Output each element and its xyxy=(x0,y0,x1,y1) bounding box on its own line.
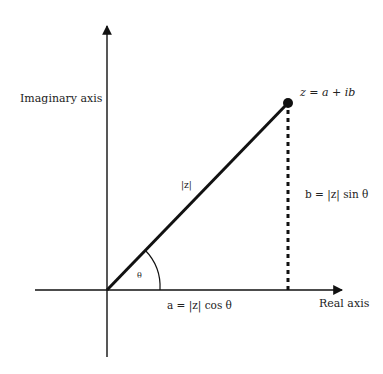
real-axis-label: Real axis xyxy=(319,297,370,310)
point-z xyxy=(283,98,293,108)
complex-plane-diagram: Imaginary axis Real axis z = a + ib |z| … xyxy=(0,0,383,374)
imaginary-part-label: b = |z| sin θ xyxy=(305,188,368,202)
modulus-vector xyxy=(107,103,288,290)
modulus-label: |z| xyxy=(181,180,192,191)
real-part-label: a = |z| cos θ xyxy=(167,299,232,313)
point-z-label: z = a + ib xyxy=(299,86,355,99)
theta-label: θ xyxy=(137,271,142,280)
angle-arc xyxy=(145,250,160,290)
imaginary-axis-label: Imaginary axis xyxy=(20,92,103,105)
